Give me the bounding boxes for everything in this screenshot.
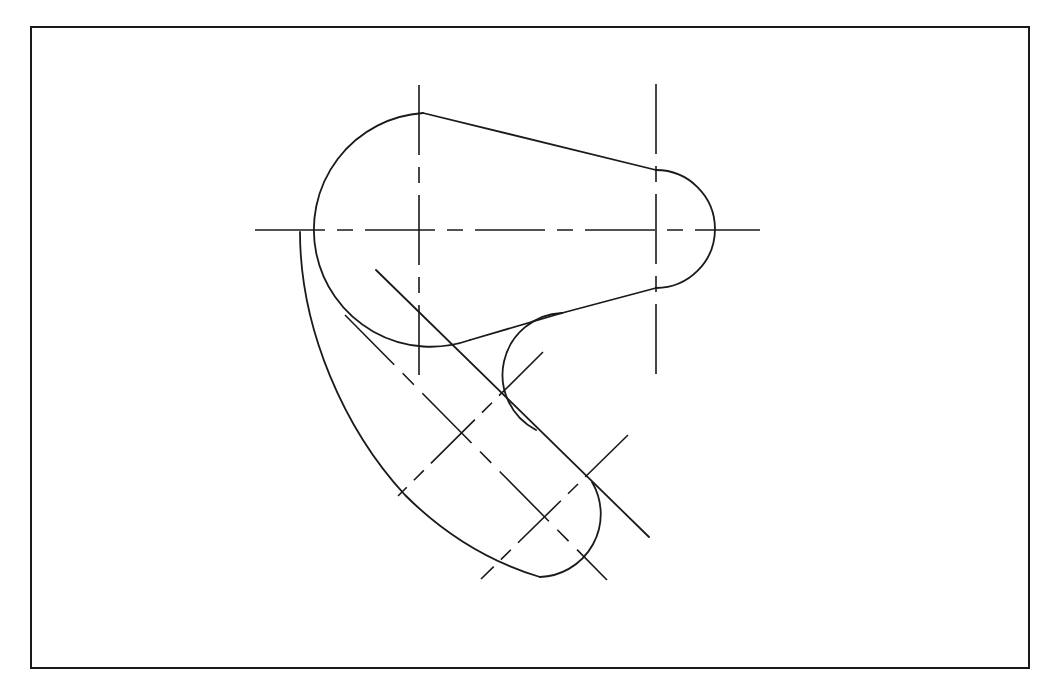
concave-fillet-arc <box>503 313 562 430</box>
small-boss-end-arc <box>656 170 715 288</box>
drawing-frame <box>31 27 1029 668</box>
lower-tangent-line <box>562 288 656 313</box>
slot-outer-edge <box>300 232 540 577</box>
technical-drawing <box>0 0 1058 700</box>
centerline-slot-axis <box>345 315 607 580</box>
slot-end-arc <box>540 482 601 577</box>
upper-tangent-line <box>423 113 656 170</box>
centerline-slot-lower-cross <box>481 435 628 579</box>
slot-inner-edge <box>376 270 649 537</box>
